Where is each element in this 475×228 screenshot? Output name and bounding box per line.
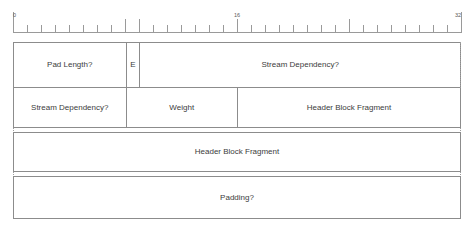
frame-layout-diagram: 01632 Pad Length?EStream Dependency?Stre… — [0, 0, 475, 228]
ruler-tick-14 — [209, 25, 210, 33]
ruler-tick-17 — [251, 25, 252, 33]
ruler-tick-29 — [419, 25, 420, 33]
ruler-tick-21 — [307, 25, 308, 33]
field-stream-dependency-low: Stream Dependency? — [14, 88, 126, 127]
ruler-tick-24 — [349, 19, 350, 33]
row-2: Stream Dependency?WeightHeader Block Fra… — [13, 88, 461, 128]
field-header-block-fragment-b: Header Block Fragment — [14, 133, 460, 171]
field-pad-length-label: Pad Length? — [47, 60, 92, 70]
ruler-tick-25 — [363, 25, 364, 33]
field-header-block-fragment-a-label: Header Block Fragment — [307, 103, 391, 113]
ruler-tick-3 — [55, 25, 56, 33]
row-1: Pad Length?EStream Dependency? — [13, 42, 461, 88]
ruler-tick-27 — [391, 25, 392, 33]
bit-ruler: 01632 — [13, 10, 461, 40]
ruler-tick-5 — [83, 25, 84, 33]
ruler-tick-31 — [447, 25, 448, 33]
field-weight-label: Weight — [169, 103, 194, 113]
continuation-edge-right-row1 — [460, 42, 461, 88]
ruler-tick-15 — [223, 25, 224, 33]
field-header-block-fragment-b-label: Header Block Fragment — [195, 147, 279, 157]
ruler-label-16: 16 — [234, 12, 240, 19]
field-stream-dependency-low-label: Stream Dependency? — [31, 103, 108, 113]
field-e-flag-label: E — [130, 60, 135, 70]
ruler-tick-11 — [167, 25, 168, 33]
ruler-tick-9 — [139, 19, 140, 33]
ruler-tick-1 — [27, 25, 28, 33]
field-padding-label: Padding? — [220, 193, 254, 203]
ruler-tick-28 — [405, 25, 406, 33]
ruler-tick-20 — [293, 25, 294, 33]
field-pad-length: Pad Length? — [14, 43, 126, 87]
ruler-tick-6 — [97, 25, 98, 33]
row-3: Header Block Fragment — [13, 132, 461, 172]
ruler-tick-16 — [237, 19, 238, 33]
field-e-flag: E — [126, 43, 140, 87]
ruler-label-0: 0 — [13, 12, 16, 19]
ruler-tick-19 — [279, 25, 280, 33]
ruler-tick-13 — [195, 25, 196, 33]
row-4: Padding? — [13, 176, 461, 219]
ruler-tick-30 — [433, 25, 434, 33]
field-stream-dependency-high-label: Stream Dependency? — [262, 60, 339, 70]
ruler-tick-4 — [69, 25, 70, 33]
field-padding: Padding? — [14, 177, 460, 218]
ruler-tick-26 — [377, 25, 378, 33]
ruler-tick-32 — [461, 12, 462, 33]
ruler-tick-18 — [265, 25, 266, 33]
ruler-tick-10 — [153, 25, 154, 33]
ruler-tick-8 — [125, 19, 126, 33]
field-rows: Pad Length?EStream Dependency?Stream Dep… — [13, 42, 461, 219]
ruler-tick-7 — [111, 25, 112, 33]
field-header-block-fragment-a: Header Block Fragment — [237, 88, 460, 127]
field-weight: Weight — [126, 88, 238, 127]
field-stream-dependency-high: Stream Dependency? — [139, 43, 460, 87]
ruler-tick-22 — [321, 25, 322, 33]
ruler-tick-2 — [41, 25, 42, 33]
ruler-label-32: 32 — [455, 12, 461, 19]
ruler-tick-12 — [181, 25, 182, 33]
ruler-tick-23 — [335, 25, 336, 33]
